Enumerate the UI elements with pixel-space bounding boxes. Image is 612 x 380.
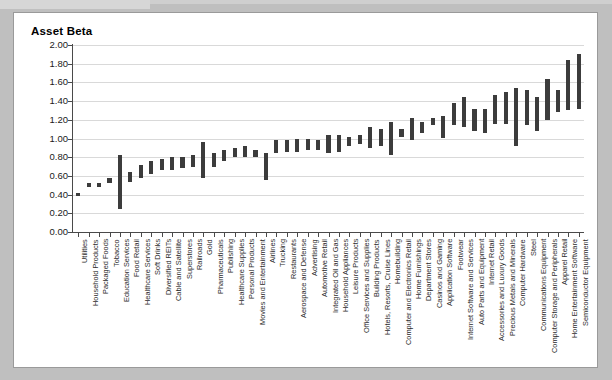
y-axis-tick-label: 0.40 — [24, 190, 68, 199]
x-axis-label: Precious Metals and Minerals — [509, 239, 516, 336]
slide-header-strip — [0, 0, 150, 9]
range-bar — [462, 97, 466, 127]
x-axis-label: Homebuilding — [394, 239, 401, 284]
x-axis-label: Department Stores — [425, 239, 432, 301]
range-bar — [472, 109, 476, 131]
y-axis-tick — [68, 213, 73, 214]
range-bar — [295, 139, 299, 152]
x-axis-tick — [360, 233, 361, 237]
x-axis-tick — [266, 233, 267, 237]
x-axis-tick — [99, 233, 100, 237]
x-axis-tick — [433, 233, 434, 237]
y-axis-tick-label: 2.00 — [24, 40, 68, 49]
plot-area — [73, 45, 584, 232]
x-axis-tick — [485, 233, 486, 237]
x-axis-label: Computer and Electronics Retail — [405, 239, 412, 345]
x-axis-tick — [475, 233, 476, 237]
x-axis-tick — [329, 233, 330, 237]
x-axis-label: Railroads — [196, 239, 203, 270]
range-bar — [118, 155, 122, 208]
x-axis-label: Home Entertainment Software — [571, 239, 578, 338]
x-axis-tick — [256, 233, 257, 237]
range-bar — [483, 109, 487, 133]
range-bar — [76, 193, 80, 197]
x-axis-label: Healthcare Supplies — [238, 239, 245, 305]
y-axis-tick-label: 1.20 — [24, 115, 68, 124]
range-bar — [441, 116, 445, 138]
x-axis-tick — [183, 233, 184, 237]
range-bar — [577, 54, 581, 108]
range-bar — [160, 159, 164, 170]
x-axis-label: Hotels, Resorts, Cruise Lines — [384, 239, 391, 335]
range-bar — [264, 153, 268, 179]
y-axis-tick — [68, 157, 73, 158]
x-axis-tick — [579, 233, 580, 237]
x-axis-label: Footwear — [457, 239, 464, 270]
x-axis-label: Auto Parts and Equipment — [478, 239, 485, 325]
range-bar — [274, 140, 278, 153]
x-axis-tick — [506, 233, 507, 237]
x-axis-label: Household Appliances — [342, 239, 349, 312]
range-bar — [514, 88, 518, 146]
range-bar — [504, 92, 508, 124]
range-bar — [525, 90, 529, 126]
y-axis-tick — [68, 120, 73, 121]
x-axis-tick — [245, 233, 246, 237]
range-bar — [285, 140, 289, 151]
range-bar — [452, 103, 456, 125]
range-bar — [556, 90, 560, 112]
y-axis-tick-label: 0.80 — [24, 152, 68, 161]
x-axis-label: Automotive Retail — [321, 239, 328, 297]
y-axis-tick-label: 1.60 — [24, 77, 68, 86]
chart-card: Asset Beta 2.001.801.601.401.201.000.800… — [13, 12, 598, 368]
x-axis-tick — [516, 233, 517, 237]
x-axis-tick — [162, 233, 163, 237]
x-axis-tick — [412, 233, 413, 237]
range-bar — [326, 135, 330, 154]
x-axis-label: Superstores — [186, 239, 193, 279]
range-bar — [379, 129, 383, 146]
y-axis-tick-label: 0.00 — [24, 227, 68, 236]
x-axis-tick — [287, 233, 288, 237]
x-axis-tick — [495, 233, 496, 237]
x-axis-tick — [203, 233, 204, 237]
x-axis-label: Office Services and Supplies — [363, 239, 370, 333]
x-axis-tick — [235, 233, 236, 237]
gridline — [73, 176, 584, 177]
y-axis-tick — [68, 176, 73, 177]
x-axis-tick — [110, 233, 111, 237]
range-bar — [222, 150, 226, 161]
gridline — [73, 64, 584, 65]
x-axis-label: Movies and Entertainment — [259, 239, 266, 325]
x-axis-label: Cable and Satellite — [175, 239, 182, 301]
x-axis-label: Packaged Foods — [102, 239, 109, 294]
range-bar — [431, 118, 435, 125]
y-axis-tick-label: 0.20 — [24, 208, 68, 217]
x-axis-label: Diversified REITs — [165, 239, 172, 295]
x-axis-tick — [297, 233, 298, 237]
x-axis-tick — [151, 233, 152, 237]
range-bar — [566, 60, 570, 110]
x-axis-label: Internet Retail — [488, 239, 495, 285]
x-axis-label: Personal Products — [248, 239, 255, 299]
x-axis-tick — [391, 233, 392, 237]
range-bar — [233, 148, 237, 157]
range-bar — [399, 129, 403, 136]
x-axis-label: Aerospace and Defense — [300, 239, 307, 318]
y-axis-tick-label: 1.80 — [24, 59, 68, 68]
range-bar — [128, 172, 132, 181]
y-axis-tick — [68, 101, 73, 102]
x-axis-label: Building Products — [373, 239, 380, 297]
x-axis-tick — [224, 233, 225, 237]
range-bar — [493, 95, 497, 123]
y-axis-tick — [68, 82, 73, 83]
y-axis-tick-label: 1.40 — [24, 96, 68, 105]
x-axis-tick — [527, 233, 528, 237]
x-axis-tick — [89, 233, 90, 237]
x-axis-label: Accessories and Luxury Goods — [498, 239, 505, 341]
x-axis-label: Casinos and Gaming — [436, 239, 443, 308]
range-bar — [107, 178, 111, 184]
gridline — [73, 157, 584, 158]
x-axis-label: Food Retail — [133, 239, 140, 277]
gridline — [73, 45, 584, 46]
